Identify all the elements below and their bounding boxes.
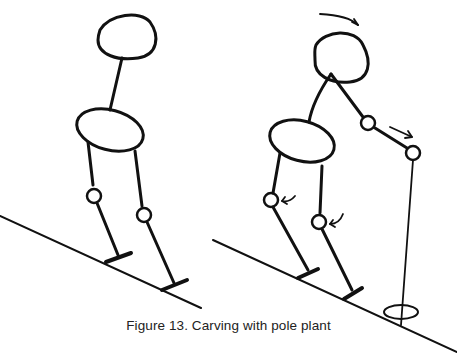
right-forearm — [375, 128, 407, 148]
right-torso — [265, 113, 339, 169]
left-neck — [110, 58, 122, 110]
right-shin-2 — [322, 229, 352, 290]
right-elbow — [361, 116, 375, 130]
right-knee-2 — [312, 215, 326, 229]
left-torso — [72, 102, 148, 158]
left-shin-2 — [147, 222, 174, 283]
left-slope-line — [0, 216, 201, 308]
right-hand — [406, 146, 420, 160]
figure-illustration — [0, 0, 457, 354]
right-shin-1 — [273, 207, 308, 270]
figure-caption: Figure 13. Carving with pole plant — [0, 318, 457, 333]
head-rotation-arrow — [320, 14, 358, 25]
ski-pole — [401, 160, 413, 325]
left-skier-figure — [0, 15, 201, 308]
left-thigh-1 — [88, 142, 93, 185]
right-neck — [309, 74, 331, 122]
left-thigh-2 — [135, 151, 142, 206]
right-head — [315, 33, 368, 82]
left-head — [98, 15, 156, 59]
left-knee-1 — [87, 189, 101, 203]
left-shin-1 — [97, 203, 118, 255]
left-knee-2 — [137, 208, 151, 222]
right-knee-1 — [264, 193, 278, 207]
right-skier-figure — [213, 14, 457, 352]
right-thigh-2 — [320, 166, 322, 213]
right-thigh-1 — [273, 153, 280, 193]
